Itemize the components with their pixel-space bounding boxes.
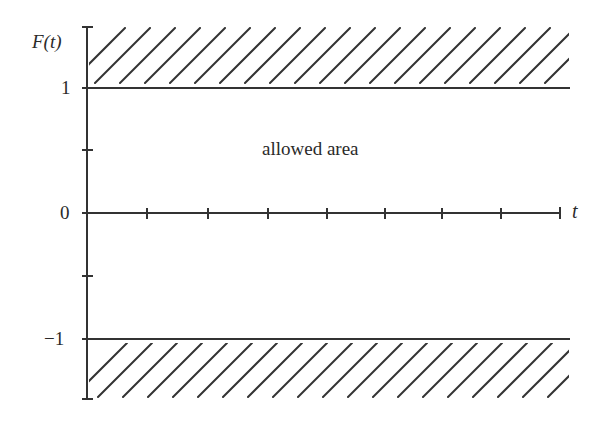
diagram-canvas: F(t) 1 0 −1 t allowed area (0, 0, 608, 424)
y-tick-label-0: 0 (60, 203, 70, 222)
upper-hatch-region (70, 28, 600, 83)
lower-hatch-region (73, 343, 602, 397)
y-tick-label-1: 1 (61, 78, 71, 97)
y-axis-label: F(t) (32, 32, 62, 51)
diagram-graphics (0, 0, 608, 424)
allowed-area-annotation: allowed area (262, 139, 359, 158)
y-tick-label-minus-1: −1 (44, 329, 64, 348)
x-axis-label: t (572, 201, 578, 221)
x-axis (82, 207, 560, 219)
